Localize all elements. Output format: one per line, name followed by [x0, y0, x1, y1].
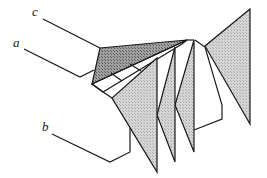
strip-edge-left [92, 84, 112, 98]
folded-structure-diagram: c a b [0, 0, 267, 178]
hanging-triangle-3 [175, 40, 194, 152]
lead-line-b [52, 126, 130, 162]
strip-rung-2 [130, 64, 141, 71]
strip-rung-1 [111, 73, 122, 81]
lead-line-a [24, 49, 94, 77]
lead-line-c [43, 19, 100, 48]
hanging-triangle-1 [112, 58, 157, 172]
label-a: a [13, 35, 20, 50]
label-b: b [42, 119, 49, 134]
hanging-triangle-2 [157, 47, 175, 162]
label-c: c [32, 4, 38, 19]
right-large-triangle [205, 9, 250, 124]
